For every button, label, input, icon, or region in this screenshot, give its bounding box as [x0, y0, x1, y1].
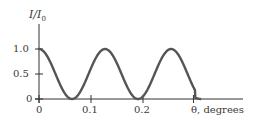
x-tick-label-01: 0.1: [82, 104, 98, 116]
x-axis-label: θ, degrees: [191, 104, 244, 116]
y-tick-label-1: 1.0: [13, 43, 29, 55]
y-axis-label: I/I0: [29, 8, 46, 23]
intensity-curve: [39, 49, 200, 99]
y-tick-label-0: 0: [26, 93, 32, 105]
x-tick-label-0: 0: [36, 104, 42, 116]
y-tick-label-05: 0.5: [13, 68, 29, 80]
axes: [35, 24, 243, 103]
x-tick-label-02: 0.2: [134, 104, 150, 116]
